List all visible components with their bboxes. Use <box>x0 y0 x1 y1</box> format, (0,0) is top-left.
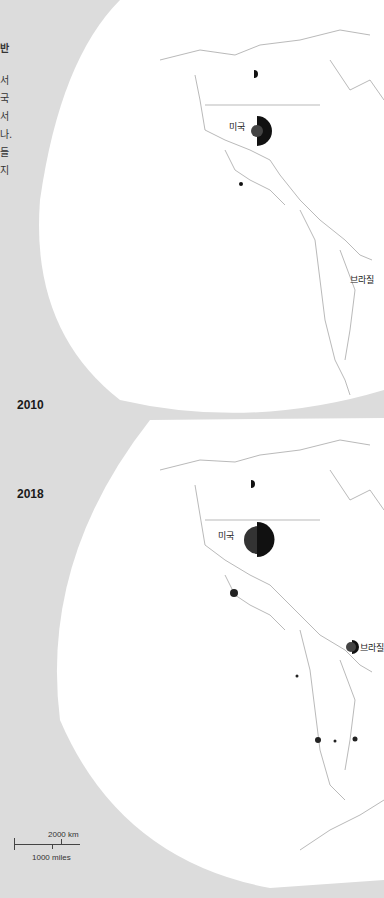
label-brazil-2010: 브라질 <box>350 273 374 286</box>
peru-symbol-2018 <box>296 675 299 678</box>
side-line: 지 <box>0 162 20 180</box>
side-line: 서 <box>0 108 20 126</box>
side-line: 국 <box>0 90 20 108</box>
label-usa-2010: 미국 <box>229 120 245 133</box>
argentina-symbol-2018 <box>334 740 337 743</box>
scale-km-label: 2000 km <box>48 830 79 839</box>
label-brazil-2018: 브라질 <box>360 641 384 654</box>
usa-symbol-inner-2010 <box>251 125 263 137</box>
chile-symbol-2018 <box>315 737 321 743</box>
scale-tick-km <box>61 839 62 844</box>
scale-miles-label: 1000 miles <box>32 853 71 862</box>
label-usa-2018: 미국 <box>218 529 234 542</box>
side-description: 반 서 국 서 나. 들 지 <box>0 40 20 180</box>
side-line: 나. <box>0 126 20 144</box>
scale-line <box>14 844 80 845</box>
brazil-symbol-inner-2018 <box>346 642 356 652</box>
scale-bar: 2000 km 1000 miles <box>12 830 82 870</box>
uruguay-symbol-2018 <box>353 737 358 742</box>
side-line: 서 <box>0 72 20 90</box>
scale-tick-start <box>14 838 15 850</box>
globe-2010 <box>39 0 384 413</box>
year-label-2010: 2010 <box>17 398 44 412</box>
scale-tick-miles <box>52 844 53 849</box>
map-canvas <box>0 0 384 898</box>
mexico-symbol-2010 <box>239 182 243 186</box>
side-line: 들 <box>0 144 20 162</box>
side-title-fragment: 반 <box>0 40 20 58</box>
mexico-symbol-2018 <box>230 589 238 597</box>
globe-2018 <box>57 418 384 888</box>
year-label-2018: 2018 <box>17 487 44 501</box>
